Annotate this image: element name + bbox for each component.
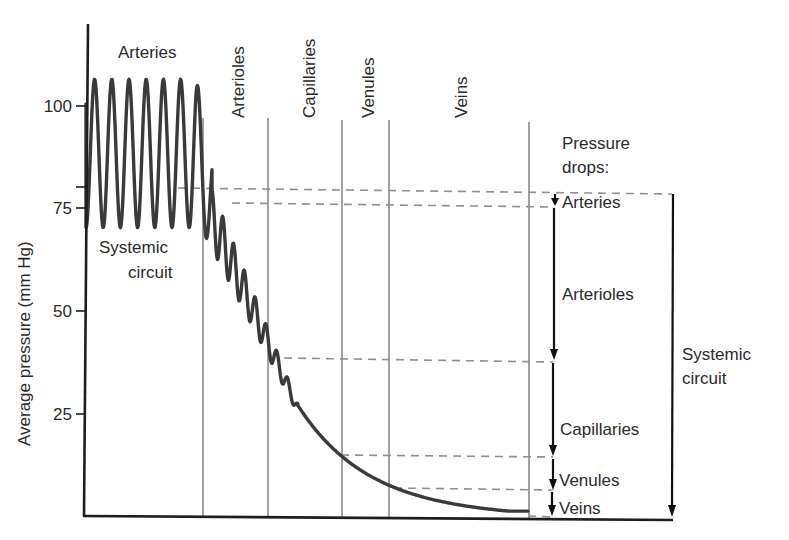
drop-label-venules: Venules xyxy=(559,471,620,490)
arrowhead-icon xyxy=(549,479,557,490)
tick-label-50: 50 xyxy=(53,302,72,321)
y-axis xyxy=(84,24,88,516)
level-line-arterioles-bottom xyxy=(284,358,553,362)
drop-label-capillaries: Capillaries xyxy=(560,420,639,439)
pressure-level-lines xyxy=(178,188,672,517)
tick-label-100: 100 xyxy=(44,97,72,116)
tick-label-25: 25 xyxy=(53,405,72,424)
region-label-arterioles: Arterioles xyxy=(229,46,248,118)
drops-title-line1: Pressure xyxy=(562,134,630,153)
pressure-curve xyxy=(86,79,528,511)
y-axis-label: Average pressure (mm Hg) xyxy=(15,241,34,446)
tick-label-75: 75 xyxy=(53,199,72,218)
y-tick-labels: 100 75 50 25 xyxy=(44,97,72,424)
arrowhead-icon xyxy=(548,505,556,516)
drop-label-veins: Veins xyxy=(559,499,601,518)
drop-arrows xyxy=(548,194,676,517)
pressure-chart: 100 75 50 25 Average pressure (mm Hg) Ar… xyxy=(0,0,789,540)
systemic-circuit-label-line2: circuit xyxy=(682,369,727,388)
drop-arrow-systemic-circuit xyxy=(672,194,673,508)
arrowhead-icon xyxy=(551,198,559,206)
arrowhead-icon xyxy=(668,505,676,517)
drops-title-line2: drops: xyxy=(562,158,609,177)
level-line-arteries-bottom xyxy=(232,203,553,207)
region-sub-label-line1: Systemic xyxy=(99,238,168,257)
drop-label-arterioles: Arterioles xyxy=(562,285,634,304)
arrowhead-icon xyxy=(549,445,557,456)
arrowhead-icon xyxy=(550,349,558,360)
region-label-veins: Veins xyxy=(452,76,471,118)
systemic-circuit-label-line1: Systemic xyxy=(682,345,751,364)
level-line-veins-bottom xyxy=(528,516,553,517)
region-sub-label-line2: circuit xyxy=(128,263,173,282)
region-label-capillaries: Capillaries xyxy=(300,39,319,118)
drop-label-arteries: Arteries xyxy=(562,193,621,212)
level-line-capillaries-bottom xyxy=(341,455,553,457)
region-label-arteries: Arteries xyxy=(118,43,177,62)
region-label-venules: Venules xyxy=(359,58,378,119)
